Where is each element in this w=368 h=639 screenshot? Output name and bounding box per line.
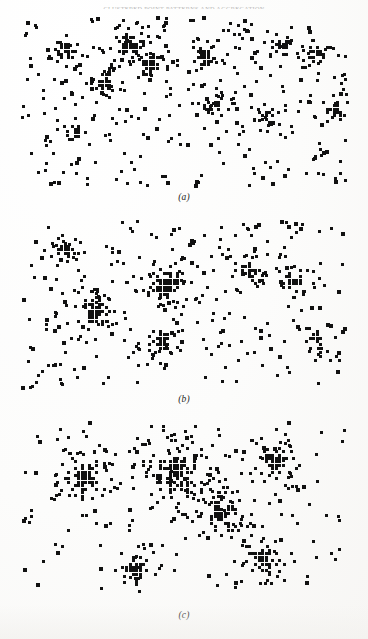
scatter-canvas-c (18, 418, 350, 594)
panel-label-c: (c) (0, 610, 368, 620)
figure-panel-a (0, 14, 368, 190)
panel-label-b: (b) (0, 394, 368, 404)
figure-panel-c (0, 418, 368, 594)
scatter-plot-a (18, 14, 350, 190)
scatter-canvas-b (18, 216, 350, 392)
figure-page: CLUSTERED POINT PATTERNS AND AGGREGATION… (0, 0, 368, 639)
running-header: CLUSTERED POINT PATTERNS AND AGGREGATION (0, 0, 368, 9)
figure-panel-b (0, 216, 368, 392)
scatter-canvas-a (18, 14, 350, 190)
running-header-text: CLUSTERED POINT PATTERNS AND AGGREGATION (103, 4, 264, 9)
scatter-plot-c (18, 418, 350, 594)
scatter-plot-b (18, 216, 350, 392)
panel-label-a: (a) (0, 192, 368, 202)
